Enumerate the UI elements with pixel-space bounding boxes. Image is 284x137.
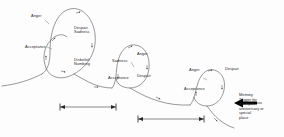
span-bar-2	[138, 116, 204, 123]
loop-2-label-acceptance: Acceptance	[108, 76, 129, 80]
loop-2-label-anger: Anger	[137, 52, 148, 56]
memory-trigger-annotation: Memory Trigger for example, anniversary …	[239, 93, 283, 121]
loop-1-label-despair-sadness: Despair Sadness	[74, 26, 90, 35]
loop-3-label-despair: Despair	[225, 67, 239, 71]
loop-3-label-anger: Anger	[189, 68, 200, 72]
loop-2-label-despair: Despair	[137, 74, 151, 78]
loop-1-label-acceptance: Acceptance	[25, 45, 46, 49]
loop-1-label-anger: Anger	[31, 14, 42, 18]
label-leader-lines	[45, 20, 207, 80]
span-bar-1	[60, 104, 116, 111]
loop-2-label-sadness: Sadness	[112, 59, 128, 63]
loop-3-label-acceptance: Acceptance	[184, 87, 205, 91]
loop-1-label-disbelief-numbing: Disbelief Numbing	[74, 58, 90, 67]
grief-loop-diagram-figure: Anger Despair Sadness Acceptance Disbeli…	[0, 0, 284, 137]
